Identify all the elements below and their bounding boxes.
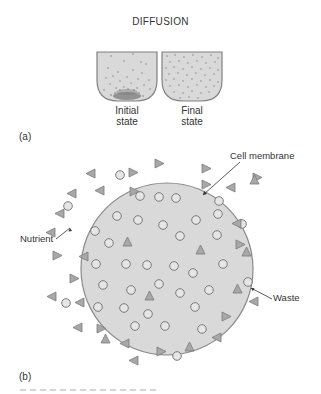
panel-b-label: (b) xyxy=(19,371,31,382)
nutrient-leader-line xyxy=(56,228,70,239)
beaker-initial-label: Initial state xyxy=(97,105,157,127)
beaker-final-label: Final state xyxy=(162,105,222,127)
initial-label-line2: state xyxy=(97,116,157,127)
initial-label-line1: Initial xyxy=(97,105,157,116)
final-label-line2: state xyxy=(162,116,222,127)
nutrient-callout: Nutrient xyxy=(20,233,53,244)
waste-callout: Waste xyxy=(273,292,300,303)
diffusion-diagram xyxy=(0,0,321,394)
beaker-final xyxy=(162,52,222,101)
waste-leader-line xyxy=(251,288,272,299)
final-label-line1: Final xyxy=(162,105,222,116)
panel-a-label: (a) xyxy=(19,131,31,142)
clipped-caption xyxy=(20,389,160,391)
cell-membrane-callout: Cell membrane xyxy=(230,150,294,161)
beaker-initial xyxy=(97,52,157,101)
